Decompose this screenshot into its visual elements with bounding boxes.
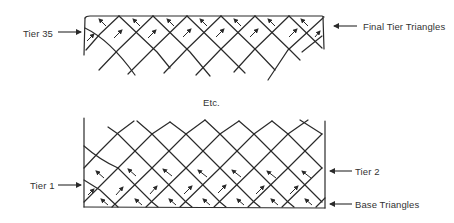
tier-35-label: Tier 35 — [23, 28, 53, 39]
top-arrows — [87, 19, 320, 41]
tier-2-label: Tier 2 — [355, 166, 380, 177]
tier-1-label: Tier 1 — [30, 180, 55, 191]
bottom-lattice — [84, 118, 325, 208]
top-lattice — [84, 16, 324, 80]
final-tier-triangles-label: Final Tier Triangles — [363, 21, 445, 32]
quilt-diagram — [0, 0, 454, 223]
base-triangles-label: Base Triangles — [355, 199, 419, 210]
etc-label: Etc. — [203, 97, 220, 108]
